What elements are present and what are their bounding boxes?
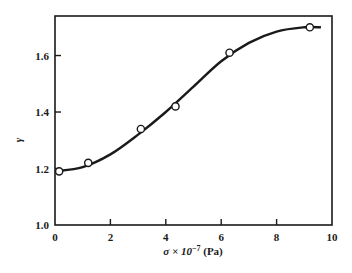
- data-point-marker: [137, 125, 144, 132]
- x-tick-label: 6: [218, 231, 224, 243]
- x-tick-label: 2: [108, 231, 114, 243]
- data-point-marker: [306, 24, 313, 31]
- y-tick-label: 1.6: [35, 50, 49, 62]
- x-tick-label: 10: [327, 231, 339, 243]
- data-points: [56, 24, 314, 175]
- data-point-marker: [172, 103, 179, 110]
- plot-frame: [55, 16, 332, 225]
- y-tick-label: 1.0: [35, 219, 49, 231]
- y-axis-label: γ: [12, 137, 24, 142]
- data-point-marker: [226, 49, 233, 56]
- x-axis: 0246810: [52, 219, 338, 243]
- x-tick-label: 8: [274, 231, 280, 243]
- y-tick-label: 1.4: [35, 106, 49, 118]
- data-point-marker: [85, 159, 92, 166]
- y-axis: 1.01.21.41.6: [35, 50, 61, 231]
- x-tick-label: 0: [52, 231, 58, 243]
- chart: 0246810 1.01.21.41.6 σ × 10−7 (Pa) γ: [0, 0, 352, 273]
- data-point-marker: [56, 168, 63, 175]
- x-tick-label: 4: [163, 231, 169, 243]
- y-tick-label: 1.2: [35, 163, 49, 175]
- x-axis-label: σ × 10−7 (Pa): [163, 244, 223, 258]
- fitted-curve: [55, 27, 321, 171]
